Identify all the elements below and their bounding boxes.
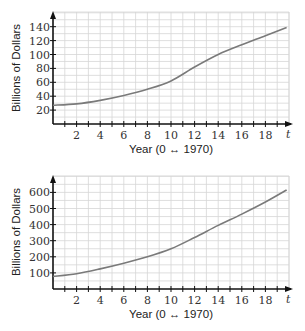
y-tick-label: 20 (36, 104, 50, 117)
x-tick-label: 4 (97, 294, 104, 307)
y-tick-label: 400 (29, 219, 50, 232)
x-tick-label: 2 (73, 294, 80, 307)
y-tick-label: 80 (36, 62, 50, 75)
x-tick-label: 10 (164, 294, 178, 307)
chart-1: 24681012141618t20406080100120140Billions… (10, 11, 293, 155)
x-tick-label: 12 (188, 129, 202, 142)
y-tick-label: 140 (29, 21, 50, 34)
grid (53, 12, 289, 124)
x-tick-label: 18 (258, 294, 272, 307)
x-tick-label: 12 (188, 294, 202, 307)
y-tick-label: 40 (36, 90, 50, 103)
y-axis-label: Billions of Dollars (10, 24, 22, 112)
x-tick-label: 2 (73, 129, 80, 142)
x-tick-label: 8 (144, 129, 151, 142)
x-axis-label: Year (0 ↔ 1970) (129, 308, 213, 320)
x-tick-label: 16 (235, 129, 249, 142)
y-tick-label: 200 (29, 251, 50, 264)
y-tick-label: 600 (29, 186, 50, 199)
y-tick-label: 100 (29, 49, 50, 62)
x-tick-label: 6 (120, 129, 127, 142)
x-tick-label: 14 (211, 129, 225, 142)
y-tick-label: 500 (29, 203, 50, 216)
x-tick-label: 10 (164, 129, 178, 142)
x-axis-variable: t (286, 128, 291, 141)
y-axis-label: Billions of Dollars (10, 188, 22, 276)
y-tick-label: 120 (29, 35, 50, 48)
x-axis-label: Year (0 ↔ 1970) (129, 143, 213, 155)
x-axis-variable: t (286, 293, 291, 306)
x-tick-label: 18 (258, 129, 272, 142)
charts-figure: 24681012141618t20406080100120140Billions… (0, 0, 305, 331)
x-tick-label: 16 (235, 294, 249, 307)
y-tick-label: 100 (29, 267, 50, 280)
x-tick-label: 4 (97, 129, 104, 142)
y-tick-label: 60 (36, 76, 50, 89)
x-tick-label: 14 (211, 294, 225, 307)
x-tick-label: 6 (120, 294, 127, 307)
y-tick-label: 300 (29, 235, 50, 248)
x-tick-label: 8 (144, 294, 151, 307)
chart-2: 24681012141618t100200300400500600Billion… (10, 175, 293, 320)
